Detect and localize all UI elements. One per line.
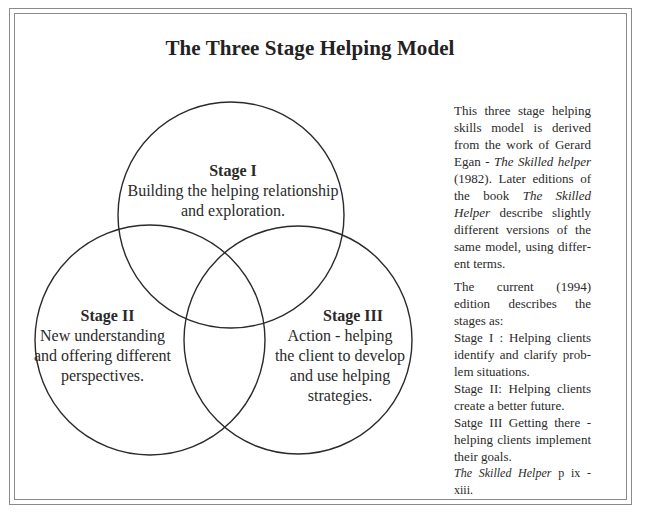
citation: The Skilled Helper p ix - xiii. (454, 465, 591, 499)
stage-1-description: Building the helping relationship and ex… (113, 181, 353, 221)
sidebar-paragraph-origin: This three stage helping skills model is… (454, 102, 591, 272)
stage-3-summary: Satge III Getting there - helping client… (454, 414, 591, 465)
sidebar-paragraph-stages: The current (1994) edition describes the… (454, 278, 591, 499)
stage-3-label: Stage III Action - helping the client to… (265, 306, 415, 406)
stage-1-label: Stage I Building the helping relationshi… (113, 161, 353, 221)
stage-2-summary: Stage II: Helping clients create a bette… (454, 380, 591, 414)
citation-book: The Skilled Helper (454, 466, 551, 480)
stage-3-name: Stage III (265, 306, 415, 326)
stage-2-label: Stage II New understanding and offering … (15, 306, 190, 386)
stage-3-description: Action - helping the client to develop a… (265, 326, 415, 406)
stage-1-name: Stage I (113, 161, 353, 181)
book-title-1: The Skilled helper (494, 154, 591, 169)
stage-2-description: New understanding and offering different… (15, 326, 190, 386)
stages-intro: The current (1994) edition describes the… (454, 278, 591, 329)
stage-2-name: Stage II (15, 306, 190, 326)
stage-1-summary: Stage I : Helping clients identify and c… (454, 329, 591, 380)
